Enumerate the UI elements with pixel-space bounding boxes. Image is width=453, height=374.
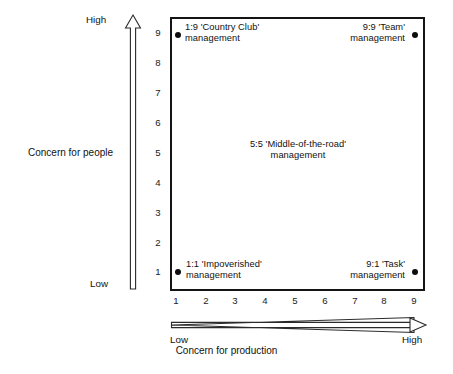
- x-axis-arrow-icon: [170, 316, 428, 334]
- y-tick-1: 1: [150, 266, 166, 277]
- y-axis-high-label: High: [86, 14, 106, 25]
- y-tick-7: 7: [150, 87, 166, 98]
- marker-task: [412, 269, 418, 275]
- y-tick-4: 4: [150, 177, 166, 188]
- y-axis-low-label: Low: [90, 278, 108, 289]
- label-impoverished-line2: management: [186, 270, 241, 280]
- x-tick-6: 6: [317, 295, 333, 306]
- y-tick-9: 9: [150, 27, 166, 38]
- x-axis-low-label: Low: [170, 334, 188, 345]
- y-axis-title: Concern for people: [28, 147, 113, 159]
- managerial-grid-figure: High Low Low High Concern for people Con…: [0, 0, 453, 374]
- x-axis-title: Concern for production: [0, 345, 453, 357]
- y-axis-arrow-icon: [124, 13, 142, 291]
- x-tick-9: 9: [406, 295, 422, 306]
- y-tick-5: 5: [150, 147, 166, 158]
- y-tick-8: 8: [150, 57, 166, 68]
- label-country-club: 1:9 'Country Club' management: [185, 22, 259, 45]
- label-middle-line1: 5:5 'Middle-of-the-road': [250, 139, 346, 149]
- label-task-line1: 9:1 'Task': [366, 259, 405, 269]
- x-tick-5: 5: [287, 295, 303, 306]
- label-impoverished: 1:1 'Impoverished' management: [186, 259, 262, 282]
- x-tick-7: 7: [347, 295, 363, 306]
- x-tick-3: 3: [227, 295, 243, 306]
- x-tick-1: 1: [168, 295, 184, 306]
- x-tick-8: 8: [376, 295, 392, 306]
- marker-impoverished: [175, 269, 181, 275]
- label-team-line1: 9:9 'Team': [363, 22, 405, 32]
- x-tick-4: 4: [257, 295, 273, 306]
- label-impoverished-line1: 1:1 'Impoverished': [186, 259, 262, 269]
- y-tick-2: 2: [150, 237, 166, 248]
- label-country-club-line1: 1:9 'Country Club': [185, 22, 259, 32]
- label-task-line2: management: [350, 270, 405, 280]
- label-middle-line2: management: [271, 150, 326, 160]
- label-task: 9:1 'Task' management: [258, 259, 405, 282]
- x-axis-high-label: High: [402, 334, 422, 345]
- marker-country-club: [175, 32, 181, 38]
- marker-team: [412, 32, 418, 38]
- label-team-line2: management: [350, 33, 405, 43]
- x-tick-2: 2: [198, 295, 214, 306]
- y-tick-3: 3: [150, 207, 166, 218]
- label-middle-of-the-road: 5:5 'Middle-of-the-road' management: [198, 139, 398, 162]
- label-team: 9:9 'Team' management: [258, 22, 405, 45]
- y-tick-6: 6: [150, 117, 166, 128]
- label-country-club-line2: management: [185, 33, 240, 43]
